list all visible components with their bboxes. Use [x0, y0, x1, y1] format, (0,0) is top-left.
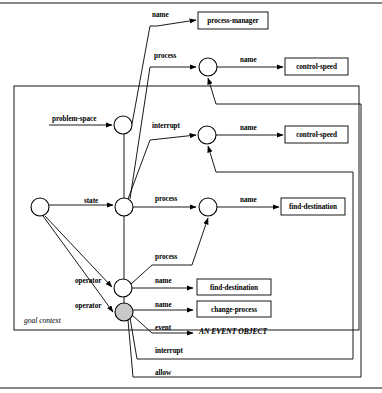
lbl-state: state — [84, 197, 98, 205]
t-find-destination-2-label: find-destination — [210, 284, 258, 292]
lbl-interrupt-2: interrupt — [155, 347, 184, 355]
lbl-event: event — [155, 324, 172, 332]
t-change-process-label: change-process — [211, 306, 257, 314]
goal-context-label: goal context — [24, 316, 62, 325]
object-graph-diagram: goal context process-managercontrol-spee… — [0, 0, 382, 393]
edge-state-riser-interrupt — [128, 140, 150, 199]
t-process-manager-label: process-manager — [207, 17, 259, 25]
terminals-layer: process-managercontrol-speedcontrol-spee… — [197, 12, 348, 336]
t-control-speed-2-label: control-speed — [296, 131, 337, 139]
t-event-object: AN EVENT OBJECT — [198, 327, 267, 336]
process-node-b — [199, 198, 217, 216]
t-find-destination-1: find-destination — [281, 198, 345, 215]
edge-problem-space-to-process-manager — [150, 20, 196, 26]
lbl-operator-1: operator — [75, 277, 102, 285]
process-node-a — [199, 58, 217, 76]
edge-to-interrupt-node-a — [150, 135, 196, 140]
t-control-speed-2: control-speed — [285, 126, 348, 143]
lbl-operator-2: operator — [75, 302, 102, 310]
t-process-manager: process-manager — [198, 12, 268, 29]
root-node — [31, 198, 49, 216]
lbl-process-1: process — [154, 52, 177, 60]
edge-operator-1-to-process-node-b — [131, 218, 208, 284]
lbl-name-1: name — [152, 11, 169, 19]
edge-root-to-operator-2 — [43, 216, 113, 312]
operator-node-1 — [114, 279, 132, 297]
edge-state-riser-process — [130, 67, 150, 199]
lbl-process-2: process — [155, 195, 178, 203]
lbl-name-4: name — [240, 196, 257, 204]
lbl-name-3: name — [240, 124, 257, 132]
operator-node-2 — [115, 303, 133, 321]
diagram-canvas: goal context process-managercontrol-spee… — [0, 0, 382, 393]
t-find-destination-1-label: find-destination — [289, 203, 337, 211]
lbl-interrupt-1: interrupt — [152, 122, 181, 130]
problem-space-node — [114, 116, 132, 134]
interrupt-node-a — [198, 126, 216, 144]
lbl-name-2: name — [240, 56, 257, 64]
lbl-name-6: name — [155, 301, 172, 309]
labels-layer: nameprocessnameinterruptnameproblem-spac… — [52, 11, 257, 377]
lbl-problem-space: problem-space — [52, 115, 96, 123]
lbl-process-3: process — [155, 253, 178, 261]
t-find-destination-2: find-destination — [197, 279, 271, 295]
t-control-speed-1-label: control-speed — [296, 63, 337, 71]
edge-problem-space-riser — [132, 26, 150, 124]
lbl-allow: allow — [155, 369, 172, 377]
t-change-process: change-process — [197, 301, 271, 317]
t-control-speed-1: control-speed — [285, 58, 348, 75]
lbl-name-5: name — [155, 277, 172, 285]
state-node — [115, 198, 133, 216]
